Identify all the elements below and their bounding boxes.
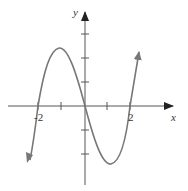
tick-label-neg2: -2 [34, 111, 43, 123]
x-axis-label: x [170, 111, 176, 123]
y-axis-label: y [72, 6, 78, 18]
cubic-graph: y x -2 2 [0, 0, 188, 191]
tick-label-2: 2 [128, 111, 134, 123]
